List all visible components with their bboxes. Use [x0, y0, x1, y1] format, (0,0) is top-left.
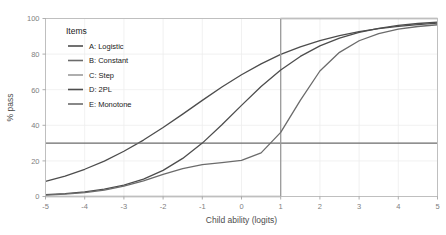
legend-item-label: A: Logistic: [89, 42, 124, 51]
y-tick-label: 100: [27, 14, 40, 23]
x-tick-label: 2: [318, 202, 322, 211]
chart-container: -5-4-3-2-1012345020406080100Child abilit…: [0, 0, 446, 235]
x-axis-title: Child ability (logits): [206, 215, 277, 225]
legend-item-label: E: Monotone: [89, 100, 132, 109]
x-tick-label: 3: [357, 202, 361, 211]
x-tick-label: 4: [396, 202, 400, 211]
y-tick-label: 60: [31, 86, 39, 95]
x-tick-label: -3: [121, 202, 128, 211]
x-tick-label: -1: [199, 202, 206, 211]
x-tick-label: -5: [42, 202, 49, 211]
x-tick-label: -2: [160, 202, 167, 211]
y-axis-title: % pass: [5, 94, 15, 122]
item-characteristic-curves-chart: -5-4-3-2-1012345020406080100Child abilit…: [0, 0, 446, 235]
y-tick-label: 80: [31, 50, 39, 59]
y-tick-label: 20: [31, 157, 39, 166]
legend-item-label: C: Step: [89, 71, 114, 80]
y-tick-label: 0: [35, 192, 39, 201]
x-tick-label: -4: [81, 202, 88, 211]
legend-item-label: D: 2PL: [89, 85, 112, 94]
legend-item-label: B: Constant: [89, 56, 129, 65]
y-tick-label: 40: [31, 121, 39, 130]
x-tick-label: 0: [239, 202, 243, 211]
legend-title: Items: [66, 26, 87, 36]
x-tick-label: 5: [435, 202, 439, 211]
x-tick-label: 1: [279, 202, 283, 211]
